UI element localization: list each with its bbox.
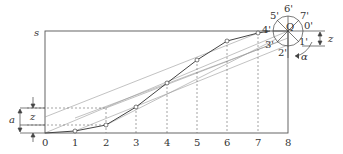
svg-text:5: 5 bbox=[194, 137, 200, 148]
z-label-left: z bbox=[29, 111, 36, 122]
svg-text:7: 7 bbox=[255, 137, 261, 148]
svg-text:4: 4 bbox=[164, 137, 170, 148]
svg-text:2: 2 bbox=[103, 137, 109, 148]
curve-points bbox=[73, 31, 260, 133]
svg-text:3': 3' bbox=[265, 39, 274, 50]
z-label-right: z bbox=[327, 33, 334, 44]
a-label: a bbox=[9, 114, 15, 125]
x-tick-labels: 0 1 2 3 4 5 6 7 8 bbox=[42, 137, 291, 148]
cam-diagram: s a z z α Q 0 1 2 3 4 5 6 7 8 0' 1' 2' 3… bbox=[0, 0, 343, 154]
center-label: Q bbox=[286, 21, 294, 32]
svg-text:4': 4' bbox=[262, 24, 271, 35]
displacement-curve bbox=[45, 31, 270, 133]
svg-text:5': 5' bbox=[270, 10, 279, 21]
svg-text:6': 6' bbox=[284, 3, 293, 14]
svg-text:2': 2' bbox=[278, 47, 287, 58]
svg-text:3: 3 bbox=[133, 137, 139, 148]
svg-text:6: 6 bbox=[224, 137, 230, 148]
arrowhead-icon bbox=[295, 53, 299, 59]
s-axis-label: s bbox=[34, 27, 39, 38]
svg-text:0': 0' bbox=[304, 20, 313, 31]
svg-text:7': 7' bbox=[300, 10, 309, 21]
svg-text:0: 0 bbox=[42, 137, 48, 148]
alpha-label: α bbox=[301, 51, 308, 62]
svg-text:8: 8 bbox=[285, 137, 291, 148]
svg-text:1': 1' bbox=[299, 36, 308, 47]
svg-text:1: 1 bbox=[72, 137, 78, 148]
